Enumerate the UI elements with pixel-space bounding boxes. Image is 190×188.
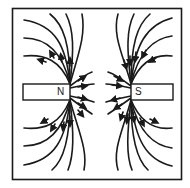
n-pole-field-lines-upper	[24, 14, 83, 84]
s-pole-field-lines-lower	[116, 100, 172, 170]
s-pole-field-lines-upper	[116, 14, 172, 84]
n-pole-label: N	[57, 87, 64, 97]
n-pole-field-lines-middle	[70, 72, 94, 114]
field-diagram: N S	[0, 0, 190, 188]
field-lines-drawing	[0, 0, 190, 188]
n-pole-field-lines-lower	[24, 100, 85, 170]
s-pole-label: S	[135, 87, 142, 97]
s-pole-field-lines-middle	[106, 72, 131, 114]
